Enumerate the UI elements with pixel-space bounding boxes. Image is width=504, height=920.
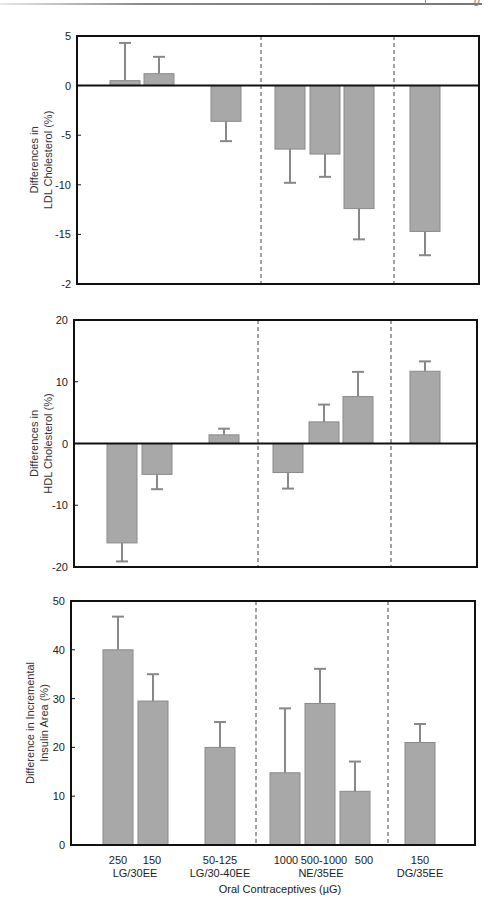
group-label: NE/35EE [298,867,343,879]
bar [405,743,435,845]
y-tick-label: 0 [59,839,65,851]
bar [310,86,340,154]
y-axis-label: Difference in Incremental [24,662,36,784]
y-axis-label: Differences in [28,410,40,477]
bar [340,791,370,845]
x-axis-title: Oral Contraceptives (µG) [219,883,341,895]
bar [209,435,239,444]
bar [211,86,241,122]
y-tick-label: -15 [55,228,71,240]
dose-label: 250 [109,854,127,866]
y-tick-label: -10 [52,499,68,511]
y-tick-label: 50 [53,595,65,607]
y-tick-label: 0 [65,80,71,92]
y-tick-label: -2 [61,278,71,290]
dose-label: 50-125 [203,854,237,866]
dose-label: 150 [411,854,429,866]
y-tick-label: 10 [56,376,68,388]
bar [138,701,168,845]
ldl-chart: 50-5-10-15-2Differences inLDL Cholestero… [28,30,479,290]
y-tick-label: 20 [53,741,65,753]
bar [144,74,174,86]
y-axis-label: Insulin Area (%) [38,684,50,762]
hdl-chart: 20100-10-20Differences inHDL Cholesterol… [28,314,477,573]
group-label: DG/35EE [397,867,443,879]
bar [344,86,374,209]
y-tick-label: 0 [62,438,68,450]
group-label: LG/30-40EE [190,867,251,879]
x-axis-labels: 25015050-1251000500-1000500150LG/30EELG/… [109,854,443,895]
y-tick-label: -10 [55,179,71,191]
dose-label: 500-1000 [301,854,348,866]
y-tick-label: 5 [65,30,71,42]
bar [205,747,235,845]
dose-label: 150 [143,854,161,866]
bar [275,86,305,149]
dose-label: 500 [355,854,373,866]
y-tick-label: 30 [53,693,65,705]
bar [410,371,440,443]
y-axis-label: HDL Cholesterol (%) [42,393,54,493]
figure-canvas: 50-5-10-15-2Differences inLDL Cholestero… [0,0,504,920]
bar [103,650,133,845]
y-tick-label: 10 [53,790,65,802]
bar [309,422,339,444]
insulin-chart: 50403020100Difference in IncrementalInsu… [24,595,475,851]
y-axis-label: Differences in [28,126,40,193]
bar [410,86,440,232]
bar [273,444,303,473]
bar [305,703,335,845]
bar [343,397,373,444]
y-tick-label: -5 [61,129,71,141]
y-axis-label: LDL Cholesterol (%) [42,111,54,210]
y-tick-label: -20 [52,561,68,573]
dose-label: 1000 [274,854,298,866]
bar [270,773,300,845]
y-tick-label: 40 [53,644,65,656]
bar [107,444,137,543]
bar [142,444,172,475]
y-tick-label: 20 [56,314,68,326]
group-label: LG/30EE [113,867,158,879]
